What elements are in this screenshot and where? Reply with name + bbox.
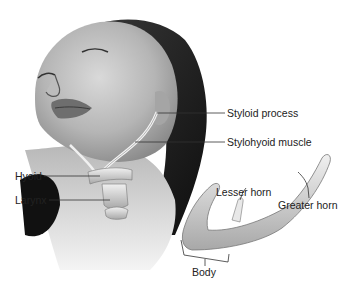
label-body: Body <box>192 267 216 278</box>
face <box>35 21 178 161</box>
label-hyoid: Hyoid <box>15 171 42 182</box>
label-larynx: Larynx <box>15 195 47 206</box>
label-stylohyoid-muscle: Stylohyoid muscle <box>227 137 312 148</box>
neck <box>20 146 176 270</box>
label-lesser-horn: Lesser horn <box>216 187 271 198</box>
label-styloid-process: Styloid process <box>227 108 298 119</box>
label-greater-horn: Greater horn <box>278 200 338 211</box>
